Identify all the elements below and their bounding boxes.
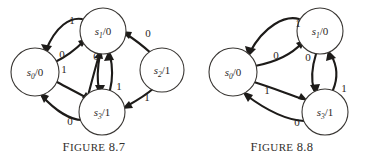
- edge-label-s2-s1: 0: [145, 27, 151, 39]
- edge-label-s0-s3: 1: [264, 84, 270, 96]
- caption-prefix: F: [251, 140, 258, 154]
- edge-label-s3-s0: 0: [294, 116, 300, 128]
- figure-caption-8-8: FIGURE 8.8: [188, 140, 376, 155]
- figure-page: s0/0 s1/0 s2/1 s3/1 1 0 0 1 1 0 0 1 FIGU…: [0, 0, 376, 165]
- edge-label-s1-s3: 1: [116, 80, 122, 92]
- caption-number: 8.8: [297, 140, 314, 154]
- state-diagram-8-8: s0/0 s1/0 s3/1 1 0 0 1 1 0: [188, 0, 376, 140]
- edge-label-s1-s0: 1: [295, 17, 301, 29]
- caption-number: 8.7: [109, 140, 126, 154]
- figure-8-7: s0/0 s1/0 s2/1 s3/1 1 0 0 1 1 0 0 1 FIGU…: [0, 0, 188, 165]
- edge-label-s2-s3: 1: [144, 91, 150, 103]
- state-diagram-8-7: s0/0 s1/0 s2/1 s3/1 1 0 0 1 1 0 0 1: [0, 0, 188, 140]
- caption-word: IGURE: [70, 141, 106, 153]
- transition-s3-to-s1: [326, 50, 337, 90]
- edge-label-s1-s0: 1: [69, 14, 75, 26]
- transition-s0-to-s1: [255, 39, 306, 66]
- edge-label-s0-s1: 0: [273, 49, 279, 61]
- transition-s1-to-s0: [245, 18, 299, 57]
- transition-s3-to-s1-inner: [104, 50, 114, 90]
- caption-word: IGURE: [258, 141, 294, 153]
- edge-label-s1-s3: 0: [305, 51, 311, 63]
- edge-label-s0-s1: 0: [59, 48, 65, 60]
- transition-s0-to-s3: [254, 82, 308, 101]
- transition-s1-to-s3: [310, 54, 320, 95]
- edge-label-s3-s1: 0: [93, 50, 99, 62]
- figure-caption-8-7: FIGURE 8.7: [0, 140, 188, 155]
- figure-8-8: s0/0 s1/0 s3/1 1 0 0 1 1 0 FIGURE 8.8: [188, 0, 376, 165]
- caption-prefix: F: [63, 140, 70, 154]
- edge-label-s0-s3: 1: [61, 63, 67, 75]
- edge-label-s3-s1: 1: [341, 82, 347, 94]
- transition-s3-to-s0: [39, 92, 82, 120]
- edge-label-s3-s0: 0: [67, 115, 73, 127]
